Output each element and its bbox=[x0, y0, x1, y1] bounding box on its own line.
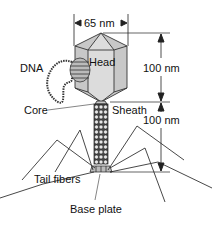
head-height-label: 100 nm bbox=[143, 62, 180, 74]
dna-strand bbox=[47, 61, 72, 103]
phage-illustration bbox=[0, 0, 217, 232]
tail-fibers-label: Tail fibers bbox=[34, 173, 80, 185]
core-label: Core bbox=[24, 104, 48, 116]
dna-packaged bbox=[70, 58, 90, 82]
dna-label: DNA bbox=[20, 62, 43, 74]
phage-diagram: 65 nm Head DNA 100 nm Core Sheath 100 nm… bbox=[0, 0, 217, 232]
base-plate-label: Base plate bbox=[70, 203, 122, 215]
sheath-label: Sheath bbox=[112, 104, 147, 116]
head-label: Head bbox=[89, 56, 115, 68]
width-dimension-label: 65 nm bbox=[84, 17, 115, 29]
tail-length-label: 100 nm bbox=[143, 114, 180, 126]
tail-sheath bbox=[94, 104, 108, 164]
